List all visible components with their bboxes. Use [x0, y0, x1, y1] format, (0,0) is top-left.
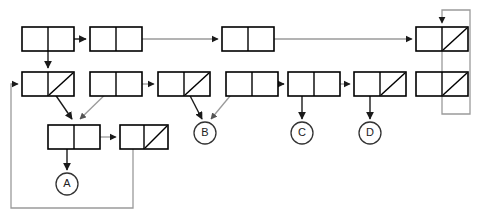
- cons-cell: [90, 27, 142, 51]
- terminal-layer: ABCD: [56, 122, 381, 195]
- cons-cell: [158, 72, 210, 96]
- terminal-label: B: [201, 126, 208, 138]
- cons-cell: [226, 72, 278, 96]
- cons-cell: [222, 27, 274, 51]
- terminal-label: D: [366, 126, 374, 138]
- cons-cell: [416, 72, 468, 96]
- terminal-node: C: [291, 122, 313, 144]
- edge-r2c7-loopback: [442, 10, 470, 114]
- box-and-pointer-diagram: ABCD: [0, 0, 480, 221]
- cons-cell: [90, 72, 142, 96]
- cons-cell: [48, 125, 100, 149]
- terminal-node: B: [194, 122, 216, 144]
- cons-cell: [354, 72, 406, 96]
- diagram-canvas: ABCD: [0, 0, 480, 221]
- cons-cell: [416, 27, 468, 51]
- cons-cell: [22, 72, 74, 96]
- terminal-label: A: [63, 177, 71, 189]
- terminal-label: C: [298, 126, 306, 138]
- cons-cell: [288, 72, 340, 96]
- terminal-node: A: [56, 173, 78, 195]
- cons-cell: [22, 27, 74, 51]
- cell-layer: [22, 27, 468, 149]
- terminal-node: D: [359, 122, 381, 144]
- cons-cell: [120, 125, 168, 149]
